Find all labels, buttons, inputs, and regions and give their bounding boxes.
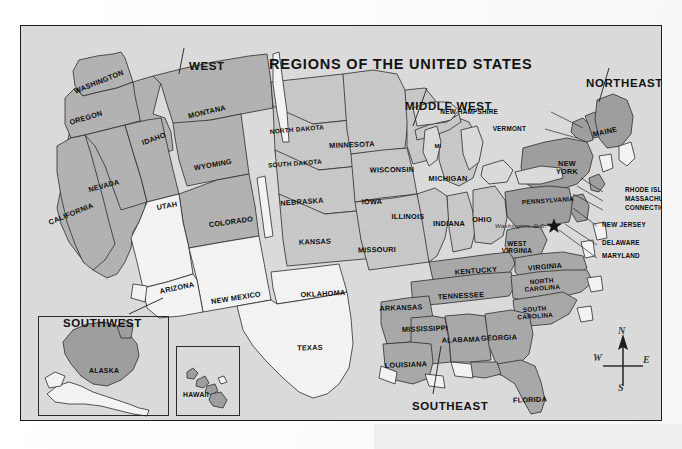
callout-label-rhode-island: RHODE ISLAND (625, 186, 662, 193)
state-label-florida: FLORIDA (513, 396, 547, 405)
callout-label-maryland: MARYLAND (602, 252, 640, 259)
scan-edge-shadow (374, 424, 682, 449)
inset-label-alaska: ALASKA (89, 367, 119, 374)
capital-star-icon (546, 218, 562, 234)
state-label-wisconsin: WISCONSIN (370, 166, 415, 174)
page-title: REGIONS OF THE UNITED STATES (269, 56, 533, 72)
state-label-illinois: ILLINOIS (392, 213, 425, 221)
state-label-west-virginia: WESTVIRGINIA (502, 241, 532, 254)
map-plate: .st { stroke: #2b2b2b; stroke-width: 0.8… (20, 25, 662, 421)
state-label-arkansas: ARKANSAS (379, 303, 423, 312)
state-label-indiana: INDIANA (433, 220, 465, 228)
callout-label-delaware: DELAWARE (602, 239, 640, 246)
washington-dc-label: Washington, D.C. (495, 222, 547, 229)
state-label-mississippi: MISSISSIPPI (402, 324, 448, 333)
region-label-west: WEST (189, 60, 225, 72)
state-label-south-carolina: SOUTHCAROLINA (517, 305, 554, 321)
state-label-missouri: MISSOURI (358, 246, 396, 254)
callout-label-connecticut: CONNECTICUT (625, 204, 662, 211)
compass-rose: N S E W (591, 326, 655, 398)
state-label-ohio: OHIO (472, 216, 492, 224)
compass-label-east: E (643, 354, 650, 365)
inset-frame-alaska (38, 316, 169, 416)
callout-label-new-jersey: NEW JERSEY (602, 221, 646, 228)
inset-label-hawaii: HAWAII (183, 391, 209, 398)
state-label-georgia: GEORGIA (481, 334, 517, 343)
callout-label-massachusetts: MASSACHUSETTS (625, 195, 662, 202)
state-label-texas: TEXAS (297, 344, 323, 353)
state-label-alabama: ALABAMA (442, 335, 481, 344)
compass-label-west: W (593, 352, 602, 363)
state-label-louisiana: LOUISIANA (385, 360, 428, 369)
compass-label-north: N (618, 325, 625, 336)
state-label-new-york: NEWYORK (556, 160, 578, 175)
inset-frame-hawaii (176, 346, 240, 416)
state-label-minnesota: MINNESOTA (329, 140, 375, 149)
compass-label-south: S (618, 382, 624, 393)
region-label-southeast: SOUTHEAST (412, 400, 488, 412)
state-label-mi: MI (435, 143, 442, 149)
state-label-kansas: KANSAS (299, 238, 332, 247)
state-label-iowa: IOWA (362, 198, 383, 206)
callout-label-vermont: VERMONT (493, 125, 526, 132)
state-label-michigan: MICHIGAN (429, 175, 468, 183)
region-label-northeast: NORTHEAST (586, 77, 662, 89)
callout-label-new-hampshire: NEW HAMPSHIRE (440, 108, 498, 115)
